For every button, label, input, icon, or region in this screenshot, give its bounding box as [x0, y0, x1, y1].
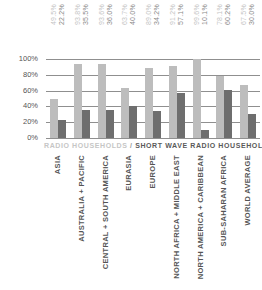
value-label: 36.0%	[106, 4, 113, 38]
y-tick-label: 0%	[0, 134, 38, 142]
value-label: 78.1%	[216, 4, 223, 38]
bar-shortwave	[201, 130, 209, 138]
value-label: 35.5%	[82, 4, 89, 38]
bar-radio	[216, 76, 224, 138]
bar-radio	[145, 68, 153, 138]
bar-shortwave	[106, 110, 114, 138]
bar-radio	[240, 85, 248, 138]
bar-shortwave	[58, 120, 66, 138]
category-label: EUROPE	[148, 155, 157, 188]
bar-radio	[98, 64, 106, 138]
bar-shortwave	[153, 111, 161, 138]
value-label: 89.0%	[145, 4, 152, 38]
value-label: 30.0%	[248, 4, 255, 38]
y-tick-label: 80%	[0, 71, 38, 79]
y-tick-label: 40%	[0, 102, 38, 110]
value-label: 40.0%	[129, 4, 136, 38]
value-label: 49.5%	[50, 4, 57, 38]
bar-radio	[169, 66, 177, 138]
value-label: 93.6%	[98, 4, 105, 38]
y-tick-label: 100%	[0, 55, 38, 63]
bar-shortwave	[224, 90, 232, 138]
category-label: ASIA	[53, 155, 62, 174]
category-label: CENTRAL + SOUTH AMERICA	[101, 155, 110, 269]
bar-shortwave	[248, 114, 256, 138]
category-label: NORTH AFRICA + MIDDLE EAST	[172, 155, 181, 279]
value-label: 57.1%	[177, 4, 184, 38]
value-label: 99.6%	[193, 4, 200, 38]
bar-shortwave	[129, 106, 137, 138]
value-label: 34.2%	[153, 4, 160, 38]
gridline	[46, 138, 260, 139]
bar-radio	[50, 99, 58, 138]
value-label: 67.5%	[240, 4, 247, 38]
value-label: 60.2%	[224, 4, 231, 38]
bar-shortwave	[177, 93, 185, 138]
category-label: WORLD AVERAGE	[243, 155, 252, 226]
bar-radio	[121, 88, 129, 138]
value-label: 10.1%	[201, 4, 208, 38]
category-label: SUB-SAHARAN AFRICA	[219, 155, 228, 246]
category-label: NORTH AMERICA + CARIBBEAN	[196, 155, 205, 279]
bar-shortwave	[82, 110, 90, 138]
legend: RADIO HOUSEHOLDS / SHORT WAVE RADIO HOUS…	[44, 142, 262, 149]
value-label: 91.2%	[169, 4, 176, 38]
category-label: EURASIA	[124, 155, 133, 191]
value-label: 93.8%	[74, 4, 81, 38]
legend-shortwave-households: SHORT WAVE RADIO HOUSEHOLDS	[135, 142, 262, 149]
category-label: AUSTRALIA + PACIFIC	[77, 155, 86, 242]
plot-area	[46, 59, 260, 138]
legend-separator: /	[128, 142, 136, 149]
value-label: 63.7%	[121, 4, 128, 38]
bar-radio	[74, 64, 82, 138]
value-label: 22.2%	[58, 4, 65, 38]
y-tick-label: 60%	[0, 87, 38, 95]
legend-radio-households: RADIO HOUSEHOLDS	[44, 142, 128, 149]
bar-radio	[193, 59, 201, 138]
value-labels: 49.5%22.2%93.8%35.5%93.6%36.0%63.7%40.0%…	[0, 4, 262, 40]
y-tick-label: 20%	[0, 118, 38, 126]
